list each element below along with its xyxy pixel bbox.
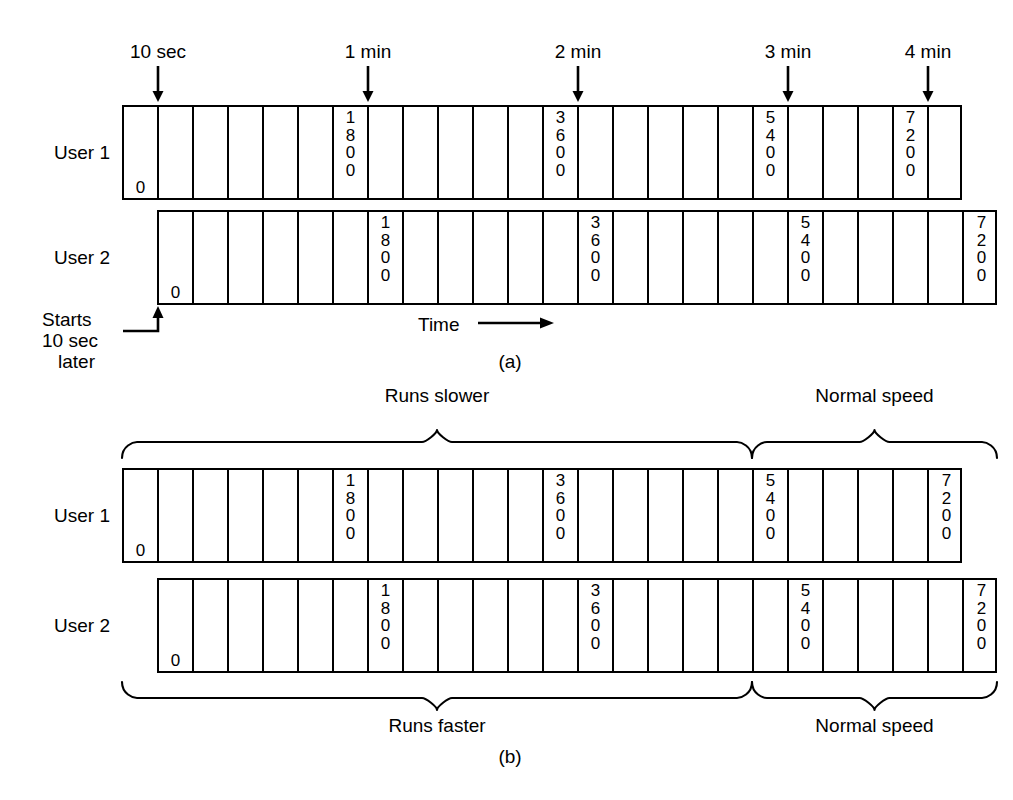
timeline-cell — [859, 107, 894, 198]
timeline-cell: 3 6 0 0 — [544, 107, 579, 198]
brace-top-label: Normal speed — [765, 384, 985, 407]
timeline-cell — [194, 580, 229, 671]
timeline-cell — [929, 212, 964, 303]
timeline-cell-value: 3 6 0 0 — [556, 472, 565, 542]
timeline-cell: 0 — [124, 470, 159, 561]
timeline-cell — [929, 107, 964, 198]
timeline-cell — [439, 107, 474, 198]
starts-later-line-3: later — [58, 350, 95, 373]
timeline-cell — [404, 212, 439, 303]
timeline-cell — [859, 212, 894, 303]
brace-top-2 — [752, 430, 997, 458]
timeline-cell — [369, 107, 404, 198]
brace-bottom-1 — [122, 682, 752, 710]
row-label-a-user-2: User 2 — [10, 246, 110, 269]
timeline-strip-b-user-2: 01 8 0 03 6 0 05 4 0 07 2 0 0 — [157, 578, 997, 673]
clock-synchronization-figure: 10 sec1 min2 min3 min4 min 01 8 0 03 6 0… — [0, 0, 1013, 800]
timeline-cell — [229, 212, 264, 303]
timeline-cell — [824, 580, 859, 671]
timeline-cell: 3 6 0 0 — [579, 580, 614, 671]
row-label-b-user-2: User 2 — [10, 614, 110, 637]
timeline-cell — [369, 470, 404, 561]
timeline-cell-value: 5 4 0 0 — [801, 214, 810, 284]
time-marker-label: 2 min — [518, 40, 638, 63]
timeline-cell — [719, 107, 754, 198]
timeline-cell — [649, 212, 684, 303]
timeline-cell — [649, 470, 684, 561]
timeline-cell — [264, 470, 299, 561]
timeline-cell-value: 7 2 0 0 — [977, 214, 986, 284]
timeline-cell — [929, 580, 964, 671]
timeline-cell: 7 2 0 0 — [964, 212, 999, 303]
timeline-cell: 1 8 0 0 — [334, 107, 369, 198]
timeline-cell — [404, 470, 439, 561]
timeline-cell — [194, 107, 229, 198]
timeline-cell-value: 1 8 0 0 — [381, 582, 390, 652]
timeline-strip-a-user-2: 01 8 0 03 6 0 05 4 0 07 2 0 0 — [157, 210, 997, 305]
timeline-cell — [719, 580, 754, 671]
time-axis-label: Time — [418, 313, 460, 336]
timeline-cell — [299, 107, 334, 198]
timeline-cell — [544, 580, 579, 671]
brace-top-label: Runs slower — [327, 384, 547, 407]
timeline-cell-value: 7 2 0 0 — [977, 582, 986, 652]
timeline-cell — [229, 470, 264, 561]
timeline-cell — [299, 470, 334, 561]
timeline-cell: 5 4 0 0 — [789, 580, 824, 671]
timeline-strip-b-user-1: 01 8 0 03 6 0 05 4 0 07 2 0 0 — [122, 468, 962, 563]
timeline-cell — [649, 107, 684, 198]
timeline-cell — [824, 470, 859, 561]
caption-b: (b) — [460, 745, 560, 768]
caption-a: (a) — [460, 350, 560, 373]
time-marker-arrow — [923, 66, 934, 102]
timeline-cell: 7 2 0 0 — [964, 580, 999, 671]
timeline-cell — [159, 107, 194, 198]
timeline-strip-a-user-1: 01 8 0 03 6 0 05 4 0 07 2 0 0 — [122, 105, 962, 200]
timeline-cell — [684, 470, 719, 561]
timeline-cell: 3 6 0 0 — [579, 212, 614, 303]
timeline-cell — [474, 107, 509, 198]
timeline-cell — [334, 580, 369, 671]
timeline-cell: 5 4 0 0 — [789, 212, 824, 303]
timeline-cell-value: 7 2 0 0 — [906, 109, 915, 179]
timeline-cell — [404, 580, 439, 671]
timeline-cell — [439, 580, 474, 671]
timeline-cell — [824, 212, 859, 303]
brace-bottom-label: Runs faster — [327, 714, 547, 737]
timeline-cell — [334, 212, 369, 303]
time-marker-label: 4 min — [868, 40, 988, 63]
timeline-cell — [614, 580, 649, 671]
timeline-cell — [299, 580, 334, 671]
timeline-cell — [474, 470, 509, 561]
timeline-cell — [404, 107, 439, 198]
timeline-cell — [859, 580, 894, 671]
timeline-cell: 0 — [124, 107, 159, 198]
timeline-cell: 5 4 0 0 — [754, 470, 789, 561]
timeline-cell: 5 4 0 0 — [754, 107, 789, 198]
timeline-cell — [509, 212, 544, 303]
timeline-cell-value: 3 6 0 0 — [591, 582, 600, 652]
timeline-cell: 0 — [159, 580, 194, 671]
timeline-cell — [579, 107, 614, 198]
timeline-cell — [509, 107, 544, 198]
timeline-cell — [614, 470, 649, 561]
timeline-cell — [719, 212, 754, 303]
timeline-cell — [264, 212, 299, 303]
timeline-cell-value: 1 8 0 0 — [381, 214, 390, 284]
timeline-cell: 1 8 0 0 — [369, 212, 404, 303]
timeline-cell — [894, 580, 929, 671]
timeline-cell-value: 0 — [136, 179, 145, 197]
timeline-cell: 7 2 0 0 — [929, 470, 964, 561]
timeline-cell — [649, 580, 684, 671]
timeline-cell-value: 5 4 0 0 — [766, 109, 775, 179]
time-marker-arrow — [153, 66, 164, 102]
timeline-cell: 1 8 0 0 — [369, 580, 404, 671]
timeline-cell-value: 7 2 0 0 — [942, 472, 951, 542]
timeline-cell: 1 8 0 0 — [334, 470, 369, 561]
timeline-cell-value: 3 6 0 0 — [591, 214, 600, 284]
timeline-cell — [894, 470, 929, 561]
timeline-cell — [509, 580, 544, 671]
timeline-cell — [544, 212, 579, 303]
starts-later-line-1: Starts — [42, 308, 92, 331]
timeline-cell — [509, 470, 544, 561]
